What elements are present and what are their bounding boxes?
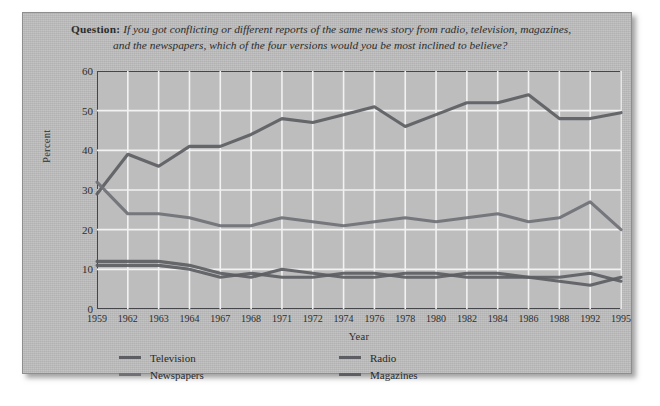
series-line-television	[97, 95, 621, 194]
y-tick-label: 50	[82, 105, 93, 117]
series-line-newspapers	[97, 182, 621, 230]
y-tick-label: 40	[82, 144, 93, 156]
legend-label: Television	[150, 352, 196, 364]
question-line-1: Question: If you got conflicting or diff…	[71, 21, 591, 37]
x-tick-label: 1974	[334, 313, 354, 324]
legend-swatch-icon	[119, 356, 141, 359]
y-axis-title: Percent	[41, 129, 52, 163]
x-tick-label: 1971	[272, 313, 292, 324]
y-tick-label: 30	[82, 184, 93, 196]
x-tick-label: 1959	[87, 313, 107, 324]
y-axis-tick-labels: 0102030405060	[59, 71, 93, 309]
x-tick-label: 1968	[241, 313, 261, 324]
x-tick-label: 1992	[580, 313, 600, 324]
legend-label: Radio	[370, 352, 396, 364]
series-lines	[97, 71, 621, 309]
x-tick-label: 1995	[611, 313, 631, 324]
question-label: Question:	[71, 23, 120, 35]
question-text-line-2: and the newspapers, which of the four ve…	[113, 39, 508, 51]
legend-item-radio[interactable]: Radio	[339, 349, 539, 366]
legend-swatch-icon	[339, 373, 361, 376]
x-tick-label: 1976	[364, 313, 384, 324]
x-tick-label: 1980	[426, 313, 446, 324]
legend-item-newspapers[interactable]: Newspapers	[119, 366, 319, 383]
x-tick-label: 1967	[210, 313, 230, 324]
chart-plot-area	[97, 71, 621, 309]
x-tick-label: 1964	[179, 313, 199, 324]
x-tick-label: 1963	[149, 313, 169, 324]
x-tick-label: 1978	[395, 313, 415, 324]
x-tick-label: 1988	[549, 313, 569, 324]
legend-swatch-icon	[339, 356, 361, 359]
x-tick-label: 1972	[303, 313, 323, 324]
y-tick-label: 10	[82, 263, 93, 275]
x-axis-tick-labels: 1959196219631964196719681971197219741976…	[97, 313, 621, 329]
x-tick-label: 1986	[519, 313, 539, 324]
question-text-line-1: If you got conflicting or different repo…	[123, 23, 571, 35]
y-tick-label: 20	[82, 224, 93, 236]
x-tick-label: 1962	[118, 313, 138, 324]
legend-swatch-icon	[119, 373, 141, 376]
chart-legend: TelevisionRadioNewspapersMagazines	[119, 349, 539, 383]
x-axis-title: Year	[97, 331, 621, 342]
legend-label: Magazines	[370, 369, 418, 381]
figure-page: Question: If you got conflicting or diff…	[22, 12, 632, 374]
legend-item-magazines[interactable]: Magazines	[339, 366, 539, 383]
y-tick-label: 60	[82, 65, 93, 77]
legend-label: Newspapers	[150, 369, 204, 381]
x-tick-label: 1984	[488, 313, 508, 324]
question-header: Question: If you got conflicting or diff…	[71, 21, 591, 53]
x-tick-label: 1982	[457, 313, 477, 324]
question-line-2: and the newspapers, which of the four ve…	[71, 37, 591, 53]
legend-item-television[interactable]: Television	[119, 349, 319, 366]
